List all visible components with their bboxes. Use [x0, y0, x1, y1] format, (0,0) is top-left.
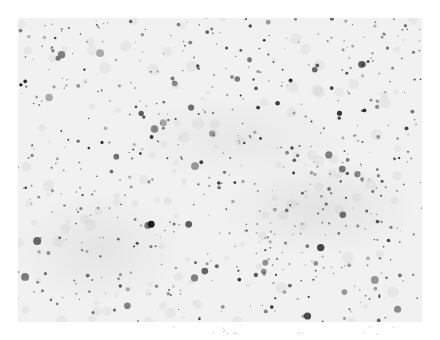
microscopy-image — [18, 18, 422, 322]
stray-puncta — [0, 322, 440, 340]
stained-puncta — [18, 18, 422, 322]
